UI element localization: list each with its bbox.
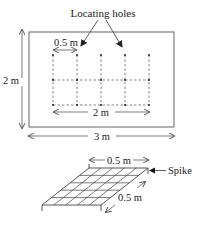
quadrat-frame-figure: 0.5 m Spike 0.5 m: [42, 155, 192, 212]
width-label: 3 m: [94, 131, 110, 142]
plot-layout-figure: Locating holes 2 m 0.5 m: [3, 7, 174, 142]
grid-span-label: 2 m: [93, 107, 109, 118]
quadrat-grid: [42, 164, 148, 211]
locating-hole-arrow-left: [81, 20, 98, 46]
height-label: 2 m: [3, 75, 19, 86]
spike-label: Spike: [168, 165, 192, 176]
locating-holes-label: Locating holes: [70, 7, 135, 19]
spike-marker-icon: [149, 168, 155, 174]
locating-hole-arrow-right: [106, 20, 122, 47]
quadrat-depth-label: 0.5 m: [118, 192, 142, 203]
diagram-canvas: Locating holes 2 m 0.5 m: [0, 0, 207, 227]
quadrat-depth-arrow-up: [137, 182, 145, 188]
quadrat-width-label: 0.5 m: [107, 155, 131, 166]
spacing-label: 0.5 m: [54, 37, 78, 48]
quadrat-depth-arrow-down: [106, 205, 115, 212]
